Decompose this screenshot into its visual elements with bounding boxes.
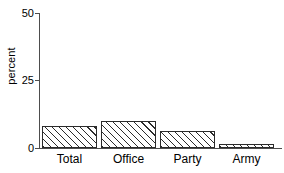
bar-total (42, 126, 97, 148)
bar-army (219, 144, 274, 148)
y-tick-label-50: 50 (4, 8, 34, 19)
bar-party (160, 131, 215, 148)
y-axis-label: percent (5, 36, 17, 96)
x-tick-label-total: Total (42, 152, 97, 166)
plot-area (39, 10, 282, 148)
y-tick-label-25: 25 (4, 75, 34, 86)
bar-chart: percent 50 25 0 Total Office Party Army (0, 0, 284, 173)
y-tick-label-0: 0 (4, 143, 34, 154)
x-tick-label-party: Party (160, 152, 215, 166)
bar-office (101, 121, 156, 148)
x-tick-label-army: Army (219, 152, 274, 166)
y-tick-mark-0 (35, 148, 40, 149)
x-axis-line (39, 148, 282, 149)
x-tick-label-office: Office (101, 152, 156, 166)
